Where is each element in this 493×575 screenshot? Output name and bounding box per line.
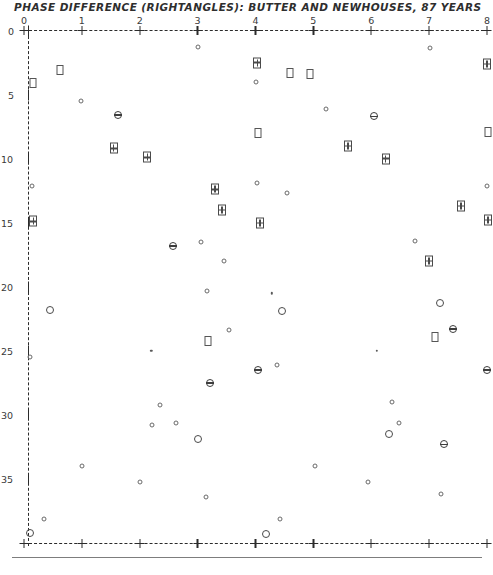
data-point-open-square <box>57 65 64 75</box>
y-tick-label-10: 10 <box>1 153 13 164</box>
data-point-small-open-circle <box>277 516 282 521</box>
x-tick-label-8: 8 <box>484 15 490 26</box>
y-tick-label-15: 15 <box>1 217 13 228</box>
data-point-crossed-square <box>256 217 264 228</box>
axis-tick-plus <box>77 26 86 35</box>
chart-title: PHASE DIFFERENCE (RIGHTANGLES): BUTTER A… <box>14 1 482 13</box>
axis-tick-plus <box>483 539 492 548</box>
footer-caption <box>0 563 493 573</box>
data-point-crossed-square <box>483 58 491 69</box>
axis-tick-plus <box>77 539 86 548</box>
data-point-open-square <box>307 69 314 79</box>
axis-tick-plus <box>309 26 318 35</box>
data-point-small-open-circle <box>204 288 209 293</box>
top-axis <box>22 26 489 35</box>
data-point-large-open-circle <box>262 530 270 538</box>
data-point-open-square <box>255 128 262 138</box>
axis-tick-plus <box>135 26 144 35</box>
data-point-small-open-circle <box>485 183 490 188</box>
scatter-plot-figure: PHASE DIFFERENCE (RIGHTANGLES): BUTTER A… <box>0 0 493 575</box>
y-axis-tick <box>28 25 30 36</box>
data-point-large-open-circle <box>385 430 393 438</box>
x-tick-label-0: 0 <box>21 15 27 26</box>
data-point-large-open-circle <box>436 299 444 307</box>
data-point-crossed-square <box>211 184 219 195</box>
data-point-small-open-circle <box>30 183 35 188</box>
axis-tick-plus <box>309 539 318 548</box>
data-point-crossed-square <box>344 140 352 151</box>
data-point-crossed-square <box>484 215 492 226</box>
data-point-small-open-circle <box>366 479 371 484</box>
data-point-circle-with-bar <box>483 366 491 374</box>
data-point-circle-with-bar <box>169 242 177 250</box>
data-point-small-open-circle <box>227 328 232 333</box>
data-point-crossed-square <box>143 152 151 163</box>
data-point-crossed-square <box>253 57 261 68</box>
y-tick-label-25: 25 <box>1 345 13 356</box>
data-point-circle-with-bar <box>370 112 378 120</box>
data-point-small-open-circle <box>412 238 417 243</box>
data-point-open-square <box>485 127 492 137</box>
axis-tick-plus <box>251 26 260 35</box>
data-point-small-open-circle <box>79 464 84 469</box>
x-tick-label-6: 6 <box>368 15 374 26</box>
data-point-small-open-circle <box>78 98 83 103</box>
data-point-small-open-circle <box>397 420 402 425</box>
axis-tick-plus <box>425 26 434 35</box>
data-point-tiny-dot <box>271 292 273 294</box>
data-point-small-open-circle <box>42 516 47 521</box>
axis-tick-plus <box>251 539 260 548</box>
data-point-small-open-circle <box>150 423 155 428</box>
axis-tick-plus <box>367 539 376 548</box>
data-point-crossed-square <box>457 201 465 212</box>
axis-tick-plus <box>367 26 376 35</box>
data-point-small-open-circle <box>221 259 226 264</box>
x-tick-label-1: 1 <box>79 15 85 26</box>
y-tick-label-20: 20 <box>1 281 13 292</box>
y-axis-tick <box>28 409 30 420</box>
data-point-crossed-square <box>110 143 118 154</box>
y-tick-label-35: 35 <box>1 473 13 484</box>
x-tick-label-5: 5 <box>310 15 316 26</box>
axis-tick-plus <box>135 539 144 548</box>
axis-tick-plus <box>193 26 202 35</box>
data-point-circle-with-bar <box>254 366 262 374</box>
data-point-crossed-square <box>29 216 37 227</box>
data-point-small-open-circle <box>27 355 32 360</box>
data-point-large-open-circle <box>278 307 286 315</box>
y-axis-tick <box>28 473 30 484</box>
data-point-small-open-circle <box>324 106 329 111</box>
data-point-circle-with-bar <box>206 379 214 387</box>
data-point-open-square <box>431 332 438 342</box>
data-point-small-open-circle <box>428 46 433 51</box>
y-tick-label-0: 0 <box>8 25 14 36</box>
y-axis-tick <box>28 153 30 164</box>
data-point-open-square <box>205 336 212 346</box>
y-tick-label-5: 5 <box>8 89 14 100</box>
axis-tick-plus <box>193 539 202 548</box>
data-point-circle-with-bar <box>114 111 122 119</box>
data-point-circle-with-bar <box>449 325 457 333</box>
data-point-small-open-circle <box>137 479 142 484</box>
data-point-open-square <box>30 78 37 88</box>
data-point-crossed-square <box>218 204 226 215</box>
data-point-circle-with-bar <box>440 440 448 448</box>
bottom-axis <box>22 539 489 548</box>
data-point-small-open-circle <box>254 180 259 185</box>
x-tick-label-4: 4 <box>252 15 258 26</box>
axis-tick-plus <box>483 26 492 35</box>
x-tick-label-7: 7 <box>426 15 432 26</box>
data-point-tiny-dot <box>150 350 152 352</box>
data-point-tiny-dot <box>376 350 378 352</box>
data-point-crossed-square <box>382 153 390 164</box>
data-point-small-open-circle <box>196 45 201 50</box>
y-tick-label-30: 30 <box>1 409 13 420</box>
data-point-small-open-circle <box>275 362 280 367</box>
data-point-small-open-circle <box>173 420 178 425</box>
data-point-large-open-circle <box>26 529 34 537</box>
data-point-small-open-circle <box>158 402 163 407</box>
data-point-small-open-circle <box>285 191 290 196</box>
left-axis <box>24 26 33 546</box>
x-tick-label-2: 2 <box>137 15 143 26</box>
data-point-small-open-circle <box>438 492 443 497</box>
